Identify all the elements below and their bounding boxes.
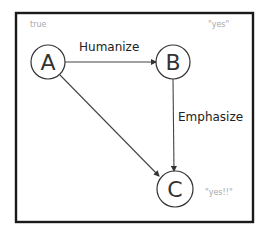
node-c-note: "yes!!" bbox=[205, 188, 233, 197]
node-a-note: true bbox=[30, 20, 46, 29]
edge-a-to-c bbox=[60, 75, 159, 176]
diagram-canvas: Humanize Emphasize A B C true "yes" "yes… bbox=[0, 0, 269, 231]
node-a: A bbox=[31, 45, 65, 79]
edge-b-to-c bbox=[173, 79, 174, 171]
node-a-label: A bbox=[40, 50, 55, 75]
edge-label-humanize: Humanize bbox=[79, 40, 139, 54]
node-c-label: C bbox=[167, 177, 182, 202]
node-b-note: "yes" bbox=[208, 20, 229, 29]
node-b-label: B bbox=[165, 50, 180, 75]
node-b: B bbox=[156, 45, 190, 79]
edge-label-emphasize: Emphasize bbox=[178, 110, 243, 124]
node-c: C bbox=[157, 171, 193, 207]
